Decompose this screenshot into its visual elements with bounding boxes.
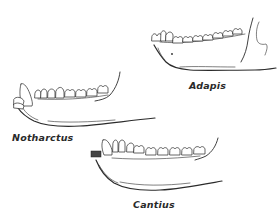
cantius-jaw	[91, 138, 222, 190]
label-adapis: Adapis	[189, 80, 226, 91]
adapis-mandible-drawing	[0, 0, 280, 217]
notharctus-jaw	[14, 72, 155, 126]
label-cantius: Cantius	[133, 199, 175, 210]
label-notharctus: Notharctus	[12, 132, 73, 143]
adapis-jaw	[152, 18, 276, 70]
figure-jaws: Adapis Notharctus Cantius	[0, 0, 280, 217]
